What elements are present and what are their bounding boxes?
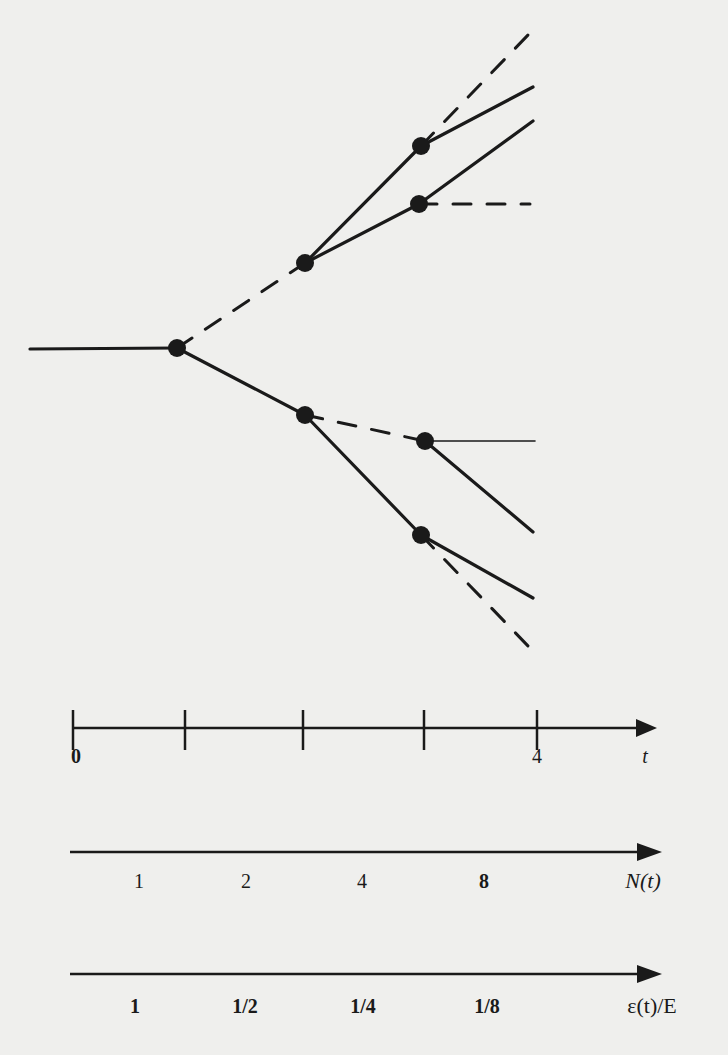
energy-axis-label: ε(t)/E (627, 993, 677, 1019)
node-upper-2b (410, 195, 428, 213)
node-lower-2a (416, 432, 434, 450)
energy-axis (70, 965, 662, 983)
count-axis (70, 843, 662, 861)
count-label-4: 4 (357, 870, 367, 893)
edge-solid (177, 348, 305, 415)
time-axis (73, 710, 657, 750)
energy-label-quarter: 1/4 (350, 995, 376, 1018)
edge-solid (305, 204, 419, 263)
edge-dashed (421, 535, 530, 648)
count-axis-label: N(t) (625, 868, 660, 894)
edge-dashed (305, 415, 425, 441)
tree-nodes (168, 137, 434, 544)
energy-label-half: 1/2 (232, 995, 258, 1018)
edge-solid (421, 87, 533, 146)
node-upper-2a (412, 137, 430, 155)
time-axis-label: t (642, 745, 648, 768)
node-root-split (168, 339, 186, 357)
edge-solid (305, 146, 421, 263)
edge-solid (419, 121, 533, 204)
tree-edges (30, 35, 535, 648)
edge-dashed (421, 35, 528, 146)
node-lower-1 (296, 406, 314, 424)
count-label-2: 2 (241, 870, 251, 893)
edge-dashed (177, 263, 305, 348)
branching-diagram (0, 0, 728, 1055)
energy-label-eighth: 1/8 (474, 995, 500, 1018)
edge-solid (305, 415, 421, 535)
edge-solid (425, 441, 533, 532)
time-tick-label-0: 0 (71, 745, 81, 768)
node-lower-2b (412, 526, 430, 544)
time-tick-label-4: 4 (532, 745, 542, 768)
energy-label-1: 1 (130, 995, 140, 1018)
count-label-8: 8 (479, 870, 489, 893)
count-label-1: 1 (134, 870, 144, 893)
node-upper-1 (296, 254, 314, 272)
edge-solid (30, 348, 177, 349)
edge-solid (421, 535, 533, 598)
